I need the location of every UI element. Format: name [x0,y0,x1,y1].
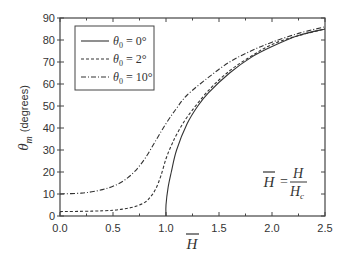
y-tick-label: 0 [49,210,55,222]
x-tick-label: 2.5 [317,222,332,234]
svg-text:Hc: Hc [289,184,304,201]
x-tick-label: 0.5 [105,222,120,234]
y-axis-label: θm(degrees) [15,85,34,151]
svg-text:H: H [186,236,199,252]
y-tick-label: 70 [43,56,55,68]
y-tick-label: 40 [43,122,55,134]
svg-text:H: H [263,174,276,190]
y-tick-label: 50 [43,100,55,112]
y-tick-label: 10 [43,188,55,200]
annotation-formula: H = H Hc [263,166,307,201]
legend-label: θ0 = 0° [113,34,147,50]
svg-text:=: = [280,174,288,189]
svg-text:H: H [292,166,304,181]
x-tick-label: 1.0 [158,222,173,234]
y-tick-label: 20 [43,166,55,178]
legend: θ0 = 0°θ0 = 2°θ0 = 10° [75,26,154,90]
svg-text:θm(degrees): θm(degrees) [15,85,34,151]
series-line [166,29,325,216]
x-tick-label: 2.0 [264,222,279,234]
x-tick-label: 0.0 [52,222,67,234]
legend-label: θ0 = 2° [113,52,147,68]
y-tick-label: 30 [43,144,55,156]
y-tick-label: 60 [43,78,55,90]
chart: 0.00.51.01.52.02.5 0102030405060708090 θ… [0,0,347,257]
x-tick-label: 1.5 [211,222,226,234]
y-tick-label: 90 [43,12,55,24]
y-tick-label: 80 [43,34,55,46]
x-axis-label: H [186,234,199,252]
